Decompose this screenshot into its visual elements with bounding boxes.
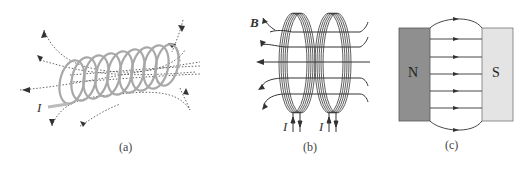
coils-field-lines: [258, 18, 370, 105]
solenoid-lead-wire: [48, 104, 68, 107]
caption-c: (c): [445, 138, 458, 153]
caption-b: (b): [303, 140, 317, 155]
current-label-b-right: I: [319, 119, 323, 135]
south-label: S: [492, 65, 500, 81]
coil-right: [315, 13, 351, 113]
coil-leads: [291, 112, 338, 132]
uniform-field-arrowheads: [453, 17, 459, 132]
solenoid-arrowheads: [22, 25, 189, 127]
current-label-a: I: [37, 100, 41, 116]
solenoid-field-lines: [20, 20, 200, 126]
field-label-b: B: [250, 15, 259, 31]
coils-arrowheads: [256, 18, 268, 110]
caption-a: (a): [119, 140, 132, 155]
solenoid-coil: [56, 42, 182, 106]
north-label: N: [408, 65, 418, 81]
coil-left: [279, 13, 315, 113]
current-label-b-left: I: [283, 119, 287, 135]
